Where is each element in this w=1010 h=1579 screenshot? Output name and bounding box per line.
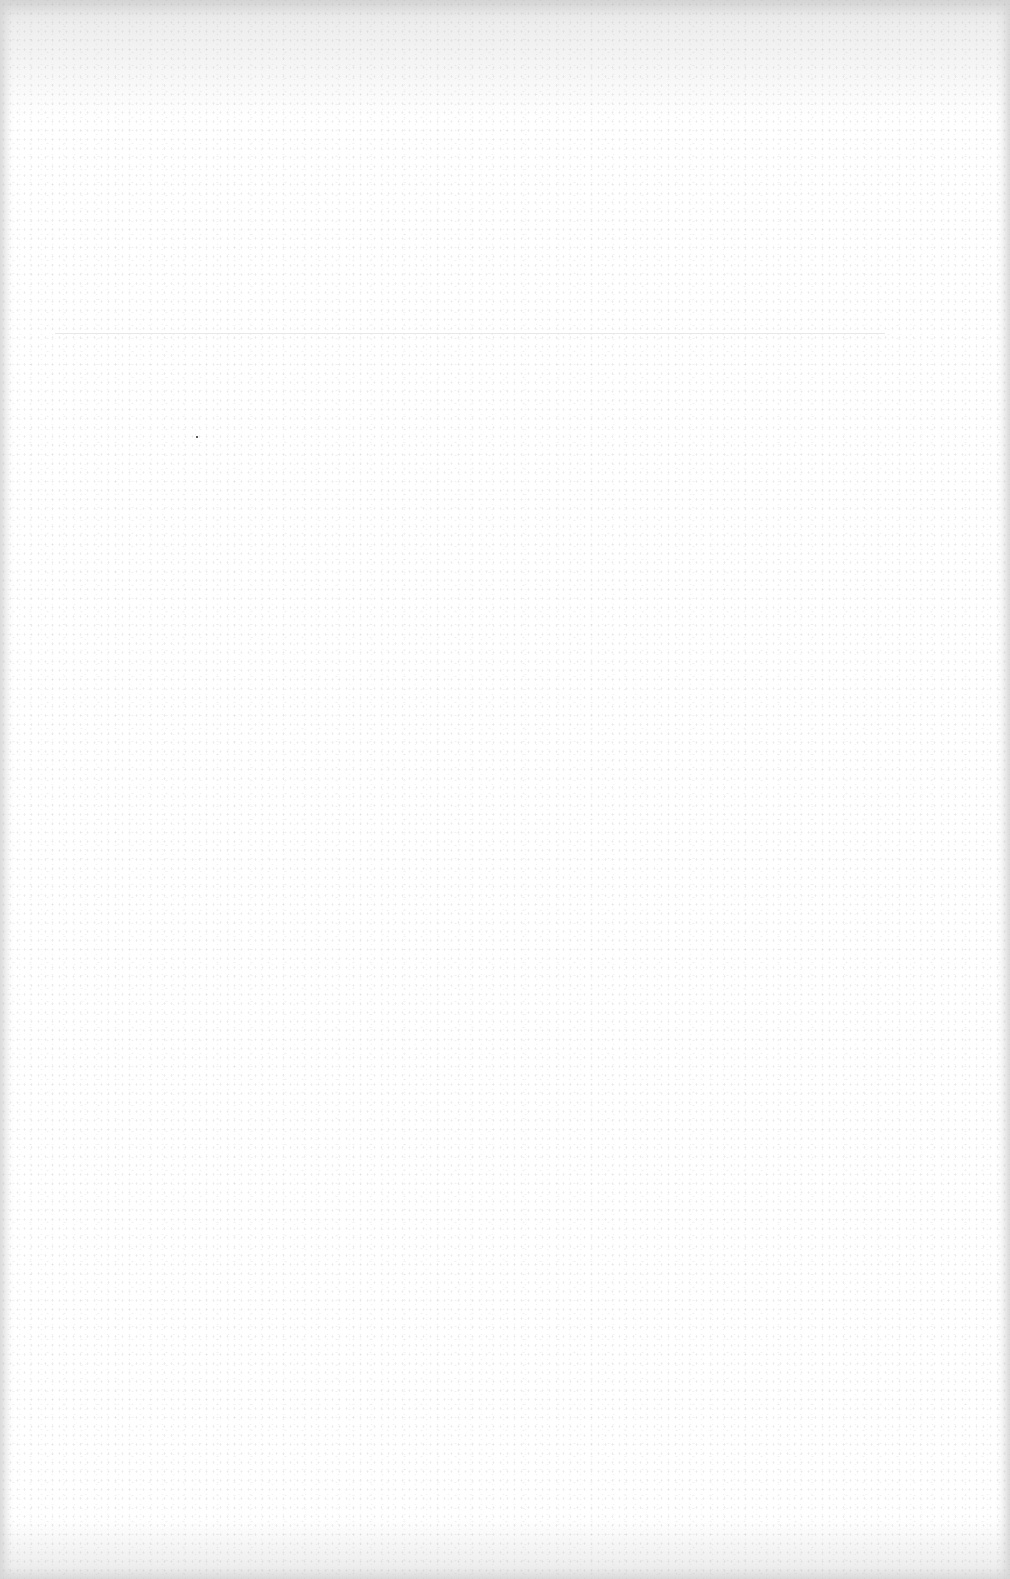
- faint-horizontal-rule: [55, 333, 885, 334]
- blank-document-page: [0, 0, 1010, 1579]
- ink-speck: [196, 436, 198, 438]
- scan-bottom-shadow: [0, 1519, 1010, 1579]
- scan-top-shadow: [0, 0, 1010, 120]
- paper-texture: [0, 0, 1010, 1579]
